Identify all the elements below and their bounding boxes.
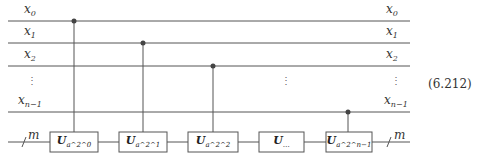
label-base: x bbox=[24, 2, 31, 16]
control-dot-1 bbox=[141, 41, 146, 46]
label-base: x bbox=[18, 93, 25, 107]
control-dot-0 bbox=[72, 19, 77, 24]
gate-base: U bbox=[273, 134, 283, 147]
left-ellipsis: ⋮ bbox=[27, 79, 37, 83]
gate-base: U bbox=[57, 134, 67, 147]
gate-base: U bbox=[126, 134, 136, 147]
control-dot-3 bbox=[346, 110, 351, 115]
label-sub: 1 bbox=[31, 31, 36, 40]
label-base: x bbox=[24, 24, 31, 38]
gate-sub: a^2^1 bbox=[135, 141, 160, 149]
register-size-label-right: m bbox=[394, 128, 405, 142]
left-label-xn-1: xn−1 bbox=[18, 93, 42, 109]
label-sub: 0 bbox=[393, 9, 398, 18]
gate-sub: a^2^0 bbox=[66, 141, 91, 149]
label-base: x bbox=[386, 24, 393, 38]
gate-base: U bbox=[196, 134, 206, 147]
gate-base: U bbox=[327, 134, 337, 147]
control-dot-2 bbox=[211, 64, 216, 69]
label-sub: 0 bbox=[31, 9, 36, 18]
right-label-xn-1: xn−1 bbox=[384, 93, 408, 109]
label-sub: 2 bbox=[31, 54, 36, 63]
label-base: x bbox=[386, 2, 393, 16]
register-size-label-left: m bbox=[28, 128, 39, 142]
gate-label-4: Ua^2^n−1 bbox=[326, 134, 372, 149]
middle-ellipsis: ⋮ bbox=[281, 79, 291, 83]
label-base: x bbox=[384, 93, 391, 107]
gate-sub: … bbox=[283, 141, 290, 149]
label-sub: n−1 bbox=[391, 100, 408, 109]
label-sub: 2 bbox=[393, 54, 398, 63]
right-ellipsis: ⋮ bbox=[391, 79, 401, 83]
label-base: x bbox=[24, 47, 31, 61]
left-label-x1: x1 bbox=[24, 24, 36, 40]
label-sub: 1 bbox=[393, 31, 398, 40]
gate-sub: a^2^2 bbox=[205, 141, 230, 149]
equation-number: (6.212) bbox=[428, 77, 472, 91]
label-base: x bbox=[386, 47, 393, 61]
gate-label-1: Ua^2^1 bbox=[119, 134, 167, 149]
gate-label-2: Ua^2^2 bbox=[188, 134, 238, 149]
right-label-x0: x0 bbox=[386, 2, 398, 18]
gate-sub: a^2^n−1 bbox=[336, 141, 371, 149]
left-label-x2: x2 bbox=[24, 47, 36, 63]
right-label-x2: x2 bbox=[386, 47, 398, 63]
gate-label-3: U… bbox=[259, 134, 304, 149]
left-label-x0: x0 bbox=[24, 2, 36, 18]
right-label-x1: x1 bbox=[386, 24, 398, 40]
gate-label-0: Ua^2^0 bbox=[50, 134, 98, 149]
label-sub: n−1 bbox=[25, 100, 42, 109]
